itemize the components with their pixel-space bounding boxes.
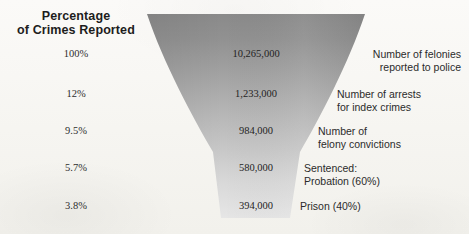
stage-description-line-2: for index crimes [337,101,421,114]
stage-percent-label: 5.7% [36,162,116,174]
stage-description: Sentenced: Probation (60%) [304,162,380,187]
stage-description: Number of felonies reported to police [373,48,461,73]
stage-description-line-1: Number of arrests [337,88,421,101]
stage-count-label: 10,265,000 [196,48,316,60]
stage-description-line-1: Number of [318,125,401,138]
funnel-chart-figure: Percentage of Crimes Reported 100% 10,26… [0,0,469,234]
stage-description: Prison (40%) [300,200,361,213]
stage-percent-label: 3.8% [36,200,116,212]
labels-layer: Percentage of Crimes Reported 100% 10,26… [0,0,469,234]
chart-title-line-1: Percentage [0,9,152,23]
stage-description-line-2: Probation (60%) [304,175,380,188]
stage-description-line-2: felony convictions [318,138,401,151]
stage-count-label: 1,233,000 [196,88,316,100]
stage-percent-label: 9.5% [36,125,116,137]
stage-count-label: 984,000 [196,125,316,137]
stage-description: Number of arrests for index crimes [337,88,421,113]
stage-description-line-2: reported to police [373,61,461,74]
stage-description-line-1: Sentenced: [304,162,380,175]
stage-count-label: 580,000 [196,162,316,174]
stage-percent-label: 100% [36,48,116,60]
chart-title-line-2: of Crimes Reported [0,23,152,37]
stage-description-line-1: Prison (40%) [300,200,361,213]
stage-count-label: 394,000 [196,200,316,212]
chart-title: Percentage of Crimes Reported [0,9,152,37]
stage-percent-label: 12% [36,88,116,100]
stage-description: Number of felony convictions [318,125,401,150]
stage-description-line-1: Number of felonies [373,48,461,61]
